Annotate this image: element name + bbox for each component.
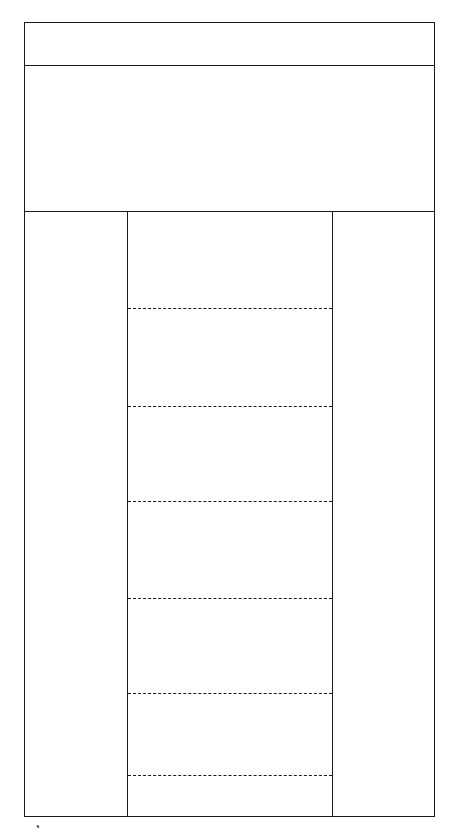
stray-mark (36, 825, 39, 829)
section-divider (128, 308, 332, 309)
page-frame (24, 22, 435, 817)
right-sidebar-region (333, 212, 434, 816)
section-divider (128, 598, 332, 599)
section-divider (128, 501, 332, 502)
section-divider (128, 775, 332, 776)
section-divider (128, 693, 332, 694)
main-content-region (128, 212, 332, 816)
left-sidebar-region (25, 212, 127, 816)
section-divider (128, 406, 332, 407)
hero-banner-region (25, 66, 434, 211)
header-region (25, 23, 434, 65)
